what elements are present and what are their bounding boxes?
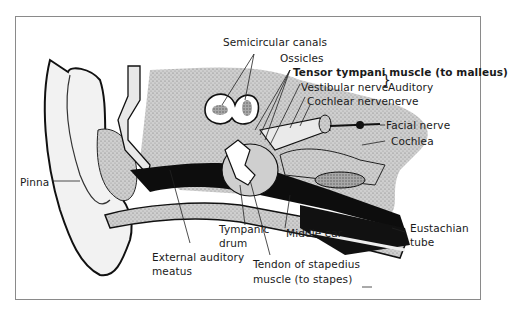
label-external-auditory-meatus-1: External auditory (152, 251, 244, 263)
label-ossicles: Ossicles (280, 52, 324, 64)
label-facial-nerve: Facial nerve (386, 119, 450, 131)
label-semicircular-canals: Semicircular canals (223, 36, 327, 48)
label-tendon-stapedius-1: Tendon of stapedius (253, 258, 360, 270)
label-tendon-stapedius-2: muscle (to stapes) (253, 273, 352, 285)
label-tensor-tympani: Tensor tympani muscle (to malleus) (293, 66, 508, 78)
label-pinna: Pinna (20, 176, 49, 188)
label-eustachian-tube-1: Eustachian (410, 222, 469, 234)
label-middle-ear: Middle ear (286, 227, 342, 239)
label-auditory-nerve-1: Auditory (388, 81, 433, 93)
label-tympanic-drum-1: Tympanic (219, 223, 269, 235)
label-external-auditory-meatus-2: meatus (152, 265, 192, 277)
label-tympanic-drum-2: drum (219, 237, 247, 249)
label-cochlea: Cochlea (391, 135, 434, 147)
label-cochlear-nerve: Cochlear nerve (307, 95, 388, 107)
label-vestibular-nerve: Vestibular nerve (301, 81, 388, 93)
label-auditory-nerve-2: nerve (388, 95, 419, 107)
label-eustachian-tube-2: tube (410, 236, 434, 248)
